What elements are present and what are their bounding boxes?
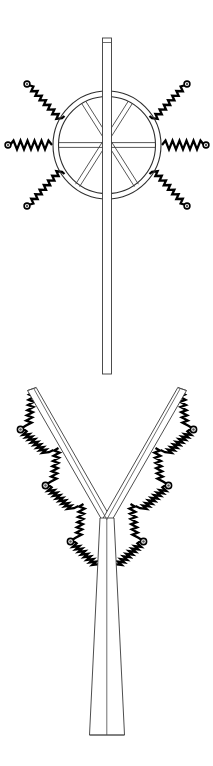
stay-right-3 bbox=[114, 504, 147, 565]
zigzag-coil-icon bbox=[10, 141, 52, 150]
anchor-core bbox=[26, 205, 28, 207]
fork-seam-left bbox=[34, 389, 107, 520]
diagram-canvas: Spring-Loaded Mast Assemblies Top view: … bbox=[0, 0, 213, 766]
vertical-mast bbox=[103, 38, 112, 374]
zigzag-coil-icon bbox=[150, 85, 187, 119]
anchor-core bbox=[205, 144, 207, 146]
zigzag-coil-icon bbox=[72, 504, 101, 565]
figure-top-group bbox=[5, 38, 209, 374]
anchor-core bbox=[26, 83, 28, 85]
zigzag-coil-icon bbox=[28, 171, 65, 205]
figure-bottom-group bbox=[17, 388, 196, 736]
anchor-core bbox=[192, 428, 195, 431]
anchor-core bbox=[167, 484, 170, 487]
zigzag-coil-icon bbox=[28, 85, 65, 119]
technical-drawing bbox=[0, 0, 213, 766]
anchor-core bbox=[7, 144, 9, 146]
spring-nw bbox=[24, 81, 64, 119]
anchor-core bbox=[142, 540, 145, 543]
zigzag-coil-icon bbox=[162, 141, 204, 150]
anchor-core bbox=[19, 428, 22, 431]
zigzag-coil-icon bbox=[150, 171, 187, 205]
stay-left-3 bbox=[67, 504, 100, 565]
anchor-core bbox=[186, 83, 188, 85]
mast-icon bbox=[103, 38, 112, 374]
y-fork-mast bbox=[28, 388, 187, 736]
spring-w bbox=[5, 141, 52, 150]
anchor-core bbox=[44, 484, 47, 487]
zigzag-coil-icon bbox=[114, 504, 143, 565]
spring-sw bbox=[24, 171, 64, 209]
anchor-core bbox=[186, 205, 188, 207]
spring-se bbox=[150, 171, 190, 209]
anchor-core bbox=[69, 540, 72, 543]
spring-e bbox=[162, 141, 209, 150]
fork-seam-right bbox=[107, 389, 180, 520]
spring-ne bbox=[150, 81, 190, 119]
